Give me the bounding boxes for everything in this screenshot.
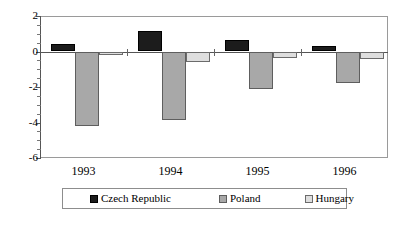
x-tick-label: 1996	[315, 164, 375, 178]
y-tick-minor	[37, 34, 41, 35]
y-tick-minor	[37, 60, 41, 61]
y-tick-minor	[37, 25, 41, 26]
legend: Czech Republic Poland Hungary	[62, 188, 347, 209]
y-tick-minor	[37, 69, 41, 70]
x-tick-label: 1993	[54, 164, 114, 178]
y-tick-label: -2	[10, 81, 38, 92]
y-tick-label: -4	[10, 117, 38, 128]
y-tick-minor	[37, 96, 41, 97]
legend-entry-hungary: Hungary	[305, 193, 355, 204]
bar-poland-1993	[75, 52, 99, 127]
x-axis-separator	[127, 49, 128, 56]
y-tick-label: -6	[10, 152, 38, 163]
x-axis-separator	[301, 49, 302, 56]
bar-hungary-1996	[360, 52, 384, 60]
legend-label: Czech Republic	[101, 193, 171, 204]
y-tick-minor	[37, 140, 41, 141]
y-tick-label: 2	[10, 10, 38, 21]
legend-swatch-icon	[305, 195, 313, 203]
bar-hungary-1993	[99, 52, 123, 56]
x-tick-label: 1994	[141, 164, 201, 178]
bar-hungary-1995	[273, 52, 297, 58]
y-tick-minor	[37, 43, 41, 44]
legend-label: Hungary	[316, 193, 355, 204]
legend-entry-czech-republic: Czech Republic	[90, 193, 171, 204]
legend-entry-poland: Poland	[219, 193, 261, 204]
bar-poland-1996	[336, 52, 360, 84]
bar-czech-republic-1994	[138, 31, 162, 51]
y-tick-minor	[37, 78, 41, 79]
x-axis-separator	[214, 49, 215, 56]
y-tick-minor	[37, 131, 41, 132]
y-tick-minor	[37, 105, 41, 106]
legend-swatch-icon	[219, 195, 227, 203]
legend-label: Poland	[230, 193, 261, 204]
bar-hungary-1994	[186, 52, 210, 63]
bar-chart: 20-2-4-6 1993199419951996 Czech Republic…	[0, 0, 408, 225]
y-tick-minor	[37, 114, 41, 115]
y-tick-label: 0	[10, 46, 38, 57]
bar-czech-republic-1996	[312, 46, 336, 51]
bar-czech-republic-1993	[51, 44, 75, 52]
x-tick-label: 1995	[228, 164, 288, 178]
bar-poland-1995	[249, 52, 273, 89]
bar-poland-1994	[162, 52, 186, 120]
legend-swatch-icon	[90, 195, 98, 203]
y-tick-minor	[37, 149, 41, 150]
bar-czech-republic-1995	[225, 40, 249, 52]
